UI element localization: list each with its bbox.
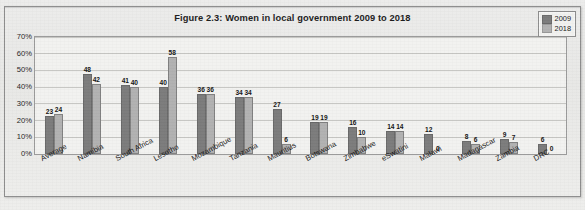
bar-series-container: 2324484241404058363634342761919161014141… [35,37,566,154]
bar-value-label: 58 [169,49,176,57]
bar-value-label: 34 [244,89,251,97]
chart-title: Figure 2.3: Women in local government 20… [0,13,585,23]
bar-value-label: 7 [512,134,516,142]
bar-group: 4140 [111,37,149,154]
y-axis-tick-label: 60% [17,48,32,57]
bar-group: 3636 [187,37,225,154]
bar-value-label: 19 [320,114,327,122]
bar-group: 97 [490,37,528,154]
bar-value-label: 10 [358,129,365,137]
bar-value-label: 24 [55,106,62,114]
bar-value-label: 41 [122,77,129,85]
bar-value-label: 12 [425,126,432,134]
bar-group: 60 [528,37,566,154]
bar-group: 86 [452,37,490,154]
y-axis-tick-label: 30% [17,98,32,107]
bar-value-label: 19 [311,114,318,122]
y-axis-tick-label: 10% [17,132,32,141]
x-axis-category-labels: AverageNamibiaSouth AfricaLesothoMozambi… [34,155,565,203]
legend-item-2009[interactable]: 2009 [542,15,571,24]
bar-2009[interactable]: 48 [83,74,92,154]
bar-value-label: 34 [235,89,242,97]
legend-item-2018[interactable]: 2018 [542,24,571,33]
y-axis-tick-label: 70% [17,32,32,41]
bar-value-label: 27 [273,101,280,109]
scanned-page: Figure 2.3: Women in local government 20… [0,0,585,210]
bar-2009[interactable]: 36 [197,94,206,154]
bar-value-label: 14 [387,123,394,131]
bar-2009[interactable]: 34 [235,97,244,154]
bar-value-label: 36 [197,86,204,94]
bar-2018[interactable]: 58 [168,57,177,154]
bar-group: 4058 [149,37,187,154]
bar-group: 3434 [225,37,263,154]
bar-value-label: 8 [465,133,469,141]
bar-value-label: 48 [84,66,91,74]
bar-value-label: 42 [93,76,100,84]
bar-value-label: 16 [349,119,356,127]
bar-value-label: 9 [503,131,507,139]
bar-group: 1919 [301,37,339,154]
legend-swatch-2009 [542,15,552,24]
y-axis-tick-label: 0% [21,149,32,158]
bar-group: 120 [414,37,452,154]
bar-group: 276 [263,37,301,154]
chart-legend: 2009 2018 [538,11,576,37]
legend-swatch-2018 [542,24,552,33]
bar-2009[interactable]: 40 [159,87,168,154]
bar-group: 2324 [35,37,73,154]
bar-value-label: 0 [550,145,554,153]
bar-group: 4842 [73,37,111,154]
legend-label-2009: 2009 [555,15,571,23]
legend-label-2018: 2018 [555,25,571,33]
bar-group: 1414 [376,37,414,154]
bar-value-label: 36 [206,86,213,94]
bar-value-label: 23 [46,108,53,116]
bar-2009[interactable]: 41 [121,85,130,154]
bar-group: 1610 [338,37,376,154]
y-axis-tick-label: 50% [17,65,32,74]
y-axis: 0%10%20%30%40%50%60%70% [2,36,34,153]
bar-value-label: 40 [131,79,138,87]
bar-value-label: 14 [396,123,403,131]
y-axis-tick-label: 40% [17,82,32,91]
bar-value-label: 6 [541,136,545,144]
y-axis-tick-label: 20% [17,115,32,124]
bar-value-label: 40 [160,79,167,87]
